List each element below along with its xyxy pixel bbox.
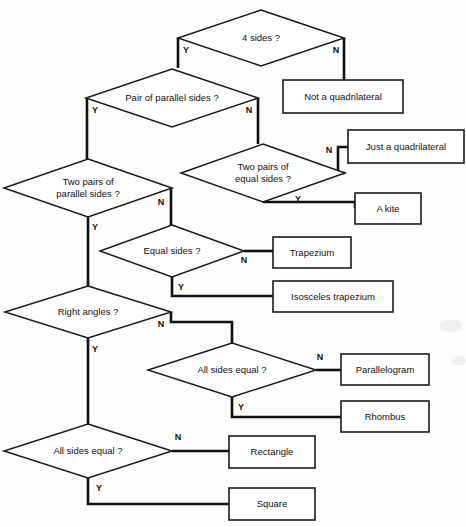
connector-all-sides-equal-lower-yes-to-square (88, 478, 229, 504)
branch-label-yes-all-sides-equal-lower: Y (96, 483, 102, 493)
result-label-square: Square (257, 498, 288, 509)
branch-label-no-two-pairs-equal-sides: N (326, 145, 333, 155)
result-label-isosceles-trapezium: Isosceles trapezium (291, 291, 375, 302)
branch-label-no-four-sides: N (333, 45, 340, 55)
connector-two-pairs-equal-yes-to-a-kite (263, 202, 355, 208)
result-label-rhombus: Rhombus (365, 411, 406, 422)
branch-label-no-two-pairs-parallel-sides: N (158, 197, 165, 207)
connector-equal-sides-yes-to-isosceles-trapezium (172, 277, 273, 296)
connector-right-angles-no-to-all-sides-equal-upper (171, 312, 232, 343)
result-label-just-a-quadrilateral: Just a quadrilateral (366, 141, 446, 152)
branch-label-no-right-angles: N (158, 319, 165, 329)
branch-label-yes-all-sides-equal-upper: Y (238, 402, 244, 412)
connector-two-pairs-equal-no-to-just-a-quadrilateral (338, 147, 348, 173)
flowchart-canvas: 4 sides ?Pair of parallel sides ?Two pai… (0, 0, 466, 527)
decision-label-four-sides: 4 sides ? (242, 32, 280, 43)
branch-label-yes-pair-parallel-sides: Y (92, 105, 98, 115)
connector-all-sides-equal-upper-yes-to-rhombus (232, 397, 341, 417)
branch-label-no-equal-sides: N (241, 255, 248, 265)
branch-label-yes-four-sides: Y (183, 45, 189, 55)
result-label-not-a-quadrilateral: Not a quadrilateral (304, 91, 382, 102)
decision-label-two-pairs-equal-sides: equal sides ? (235, 173, 291, 184)
result-label-parallelogram: Parallelogram (356, 364, 415, 375)
decision-label-right-angles: Right angles ? (58, 306, 119, 317)
branch-label-yes-two-pairs-parallel-sides: Y (92, 222, 98, 232)
result-label-trapezium: Trapezium (290, 247, 335, 258)
result-label-rectangle: Rectangle (251, 446, 294, 457)
decision-label-two-pairs-parallel-sides: parallel sides ? (56, 188, 119, 199)
decision-label-pair-parallel-sides: Pair of parallel sides ? (125, 92, 218, 103)
decision-label-all-sides-equal-upper: All sides equal ? (197, 364, 266, 375)
decision-label-two-pairs-parallel-sides: Two pairs of (62, 176, 114, 187)
flowchart-page: 4 sides ?Pair of parallel sides ?Two pai… (0, 0, 466, 527)
decision-label-equal-sides: Equal sides ? (143, 245, 200, 256)
decision-label-all-sides-equal-lower: All sides equal ? (53, 445, 122, 456)
branch-label-yes-equal-sides: Y (178, 282, 184, 292)
branch-label-no-all-sides-equal-lower: N (175, 432, 182, 442)
decision-label-two-pairs-equal-sides: Two pairs of (237, 161, 289, 172)
result-label-a-kite: A kite (376, 203, 399, 214)
branch-label-no-pair-parallel-sides: N (246, 105, 253, 115)
branch-label-yes-two-pairs-equal-sides: Y (295, 194, 301, 204)
branch-label-yes-right-angles: Y (92, 344, 98, 354)
branch-label-no-all-sides-equal-upper: N (317, 352, 324, 362)
